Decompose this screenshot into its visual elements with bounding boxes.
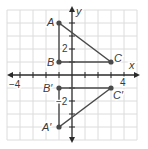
label-c: C bbox=[114, 52, 122, 64]
point-c bbox=[108, 59, 113, 64]
x-tick-label-neg4: −4 bbox=[9, 79, 21, 90]
point-a bbox=[56, 20, 61, 25]
point-b-prime bbox=[56, 85, 61, 90]
coordinate-plane: −4 4 2 −2 x y A B C A′ B′ C′ bbox=[0, 0, 148, 149]
point-a-prime bbox=[56, 124, 61, 129]
label-a: A bbox=[46, 16, 54, 28]
label-c-prime: C′ bbox=[113, 89, 124, 101]
y-tick-label-2: 2 bbox=[62, 43, 68, 54]
y-axis-label: y bbox=[75, 5, 83, 17]
label-b-prime: B′ bbox=[43, 82, 53, 94]
point-b bbox=[56, 59, 61, 64]
label-a-prime: A′ bbox=[41, 121, 52, 133]
label-b: B bbox=[47, 56, 54, 68]
x-tick-label-4: 4 bbox=[120, 77, 126, 88]
y-tick-label-neg2: −2 bbox=[56, 96, 68, 107]
x-axis-label: x bbox=[128, 59, 135, 71]
